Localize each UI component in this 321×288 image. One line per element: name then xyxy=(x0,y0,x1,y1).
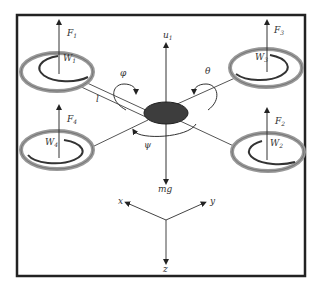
label-f4: F4 xyxy=(66,114,77,125)
axis-y xyxy=(166,203,204,220)
arm-2 xyxy=(178,120,238,148)
arm-3 xyxy=(175,78,235,105)
axis-x xyxy=(127,203,166,220)
label-y-axis: y xyxy=(209,196,216,206)
label-f2: F2 xyxy=(274,116,285,127)
label-phi: φ xyxy=(120,68,127,78)
label-f3: F3 xyxy=(273,25,284,36)
rotor-1 xyxy=(21,53,93,91)
label-u1: u1 xyxy=(163,30,173,41)
label-theta: θ xyxy=(205,66,211,76)
label-psi: ψ xyxy=(144,140,152,150)
rotor-4 xyxy=(21,131,93,169)
yaw-arrow-psi xyxy=(134,124,196,136)
label-f1: F1 xyxy=(66,28,77,39)
rotor-2 xyxy=(232,133,304,171)
label-mg: mg xyxy=(158,184,173,194)
label-x-axis: x xyxy=(118,196,123,206)
label-arm-length: l xyxy=(96,94,99,104)
quadrotor-body xyxy=(144,102,188,124)
label-z-axis: z xyxy=(162,264,168,274)
rotor-3 xyxy=(230,49,302,87)
quadrotor-diagram: F1 W1 F3 W3 F4 W4 F2 W2 u1 mg φ θ ψ l x … xyxy=(0,0,321,288)
